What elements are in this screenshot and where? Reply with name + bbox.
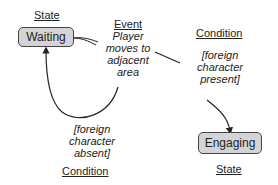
condition-absent-caption: Condition xyxy=(62,165,108,177)
condition-absent-text: [foreign character absent] xyxy=(67,123,117,159)
engaging-state-box[interactable]: Engaging xyxy=(198,132,262,154)
engaging-state-caption: State xyxy=(216,163,242,175)
condition-present-text: [foreign character present] xyxy=(190,49,250,85)
event-caption: Event xyxy=(114,18,142,30)
waiting-state-box[interactable]: Waiting xyxy=(18,27,74,47)
waiting-state-caption: State xyxy=(34,9,60,21)
event-text: Player moves to adjacent area xyxy=(98,30,158,78)
condition-present-caption: Condition xyxy=(196,27,242,39)
